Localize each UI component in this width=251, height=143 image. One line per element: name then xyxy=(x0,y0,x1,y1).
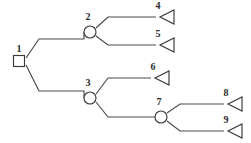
tree-branch-1-to-2 xyxy=(26,32,84,58)
node-label-6: 6 xyxy=(151,61,156,72)
node-label-4: 4 xyxy=(156,0,161,11)
tree-branch-1-to-3 xyxy=(26,65,84,98)
label-layer: 123456789 xyxy=(17,0,229,125)
decision-node-1[interactable] xyxy=(14,56,25,67)
tree-branch-2-to-4 xyxy=(96,17,156,28)
node-label-8: 8 xyxy=(224,87,229,98)
terminal-node-9[interactable] xyxy=(228,124,242,138)
node-label-7: 7 xyxy=(157,96,162,107)
terminal-node-4[interactable] xyxy=(160,10,174,24)
tree-branch-7-to-9 xyxy=(167,121,224,131)
chance-node-7[interactable] xyxy=(155,111,167,123)
node-label-9: 9 xyxy=(224,114,229,125)
node-layer xyxy=(14,10,243,138)
node-label-1: 1 xyxy=(17,43,22,54)
chance-node-3[interactable] xyxy=(84,92,96,104)
node-label-2: 2 xyxy=(86,11,91,22)
node-label-5: 5 xyxy=(156,28,161,39)
tree-branch-3-to-7 xyxy=(96,102,155,117)
chance-node-2[interactable] xyxy=(84,26,96,38)
decision-tree-diagram: 123456789 xyxy=(0,0,251,143)
terminal-node-5[interactable] xyxy=(160,38,174,52)
branch-layer xyxy=(26,17,224,131)
tree-branch-3-to-6 xyxy=(96,78,151,94)
tree-branch-2-to-5 xyxy=(96,36,156,45)
terminal-node-6[interactable] xyxy=(155,71,169,85)
tree-branch-7-to-8 xyxy=(167,104,224,113)
terminal-node-8[interactable] xyxy=(228,97,242,111)
node-label-3: 3 xyxy=(86,77,91,88)
